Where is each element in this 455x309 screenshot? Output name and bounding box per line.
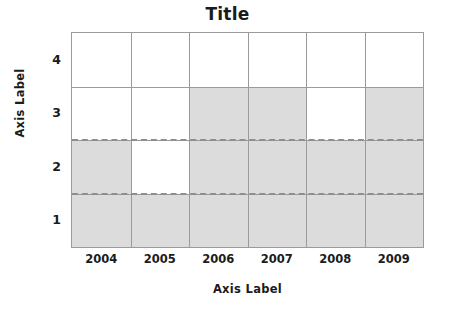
x-tick-label-2007: 2007 — [248, 254, 307, 266]
bar-2007 — [248, 87, 307, 248]
x-tick-label-2009: 2009 — [365, 254, 424, 266]
y-axis-label: Axis Label — [13, 43, 27, 163]
bar-2009 — [365, 87, 424, 248]
reference-line-y-2.5 — [72, 139, 423, 141]
y-tick-label-1: 1 — [35, 214, 61, 227]
y-tick-label-2: 2 — [35, 161, 61, 174]
chart-figure: Title Axis Label 1234 200420052006200720… — [0, 0, 455, 309]
x-axis-label: Axis Label — [71, 282, 424, 296]
y-tick-label-4: 4 — [35, 54, 61, 67]
reference-line-y-1.5 — [72, 193, 423, 195]
x-tick-label-2006: 2006 — [189, 254, 248, 266]
bar-2006 — [189, 87, 248, 248]
plot-inner — [72, 33, 423, 247]
x-tick-label-2004: 2004 — [72, 254, 131, 266]
y-tick-label-3: 3 — [35, 107, 61, 120]
bar-2005 — [131, 194, 190, 248]
plot-area — [71, 32, 424, 248]
x-tick-label-2005: 2005 — [131, 254, 190, 266]
chart-title: Title — [0, 4, 455, 24]
x-tick-label-2008: 2008 — [306, 254, 365, 266]
